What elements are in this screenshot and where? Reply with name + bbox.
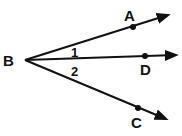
point-d — [142, 53, 148, 59]
label-a: A — [124, 7, 135, 24]
point-c — [135, 105, 141, 111]
angle-diagram: B A D C 1 2 — [0, 0, 182, 136]
label-b: B — [3, 52, 14, 69]
ray-ba — [25, 15, 168, 60]
ray-bd — [25, 55, 176, 60]
angle-2-label: 2 — [71, 64, 78, 79]
angle-1-label: 1 — [71, 45, 78, 60]
label-c: C — [131, 114, 142, 131]
point-a — [130, 24, 136, 30]
label-d: D — [140, 61, 151, 78]
